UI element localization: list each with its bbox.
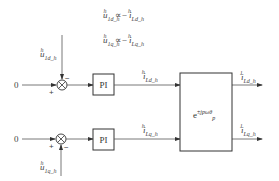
output-label-bottom: iLq_h1 [241, 126, 243, 137]
input-zero-top: 0 [14, 80, 19, 90]
equation-d-axis: u1d_hh ∝− iLd_hh [103, 10, 131, 22]
equation-q-axis: u1q_hh ∝− iLq_hh [103, 35, 131, 47]
signal-label-top: iLd_hh [143, 72, 145, 83]
signal-label-bottom: iLq_hh [143, 126, 145, 137]
minus-sign-bottom: − [64, 143, 69, 152]
minus-sign-top: − [65, 74, 70, 83]
transform-expression: e±jpωθp [193, 110, 215, 120]
pi-controller-label-top: PI [93, 80, 114, 90]
feedback-label-top: u1d_hh [40, 50, 44, 61]
input-zero-bottom: 0 [14, 134, 19, 144]
block-diagram-lines [0, 0, 279, 181]
feedback-label-bottom: u1q_hh [40, 163, 44, 174]
plus-sign-top: + [49, 88, 54, 97]
output-label-top: iLd_h1 [241, 73, 243, 84]
plus-sign-bottom: + [49, 142, 54, 151]
pi-controller-label-bottom: PI [93, 135, 114, 145]
